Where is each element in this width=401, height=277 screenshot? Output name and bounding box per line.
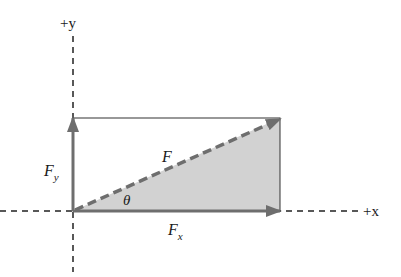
vector-diagram: +y +x F Fy Fx θ bbox=[0, 0, 401, 277]
f-label: F bbox=[161, 148, 172, 165]
fx-label: Fx bbox=[167, 221, 183, 242]
y-axis-label: +y bbox=[60, 15, 76, 31]
x-axis-label: +x bbox=[363, 203, 379, 219]
fy-label: Fy bbox=[43, 162, 59, 183]
theta-label: θ bbox=[123, 192, 131, 208]
